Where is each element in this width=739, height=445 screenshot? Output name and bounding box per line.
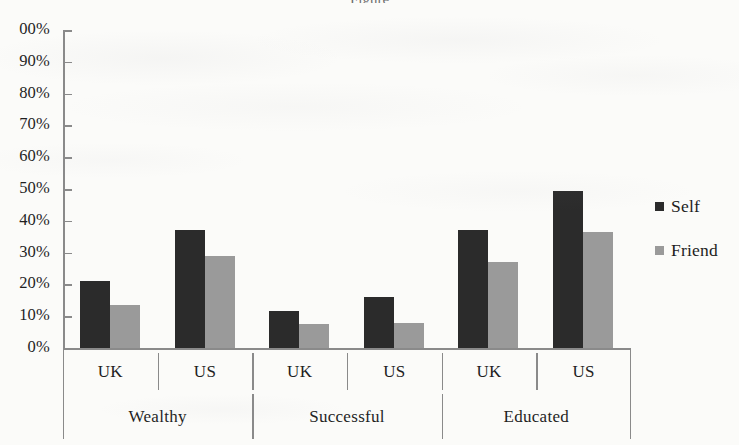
bar-group	[252, 30, 347, 348]
y-axis-tick-label: 70%	[0, 116, 50, 132]
y-axis-tick-mark	[65, 189, 72, 191]
bar-friend	[299, 324, 329, 348]
y-axis-tick-label: 50%	[0, 180, 50, 196]
y-axis-tick-label: 40%	[0, 212, 50, 228]
bar-group	[63, 30, 158, 348]
y-axis-tick-mark	[65, 30, 72, 32]
x-axis-subcategory-label: UK	[442, 349, 537, 394]
bar-friend	[205, 256, 235, 348]
bar-group	[536, 30, 631, 348]
bar-group	[347, 30, 442, 348]
y-axis-tick-label: 10%	[0, 307, 50, 323]
bar-self	[364, 297, 394, 348]
legend-item: Friend	[655, 240, 718, 261]
x-axis-subcategory-label: US	[347, 349, 442, 394]
y-axis-tick-mark	[65, 221, 72, 223]
cropped-title-fragment: Figure	[0, 0, 739, 3]
x-axis-group-label: Successful	[252, 394, 441, 439]
y-axis-tick-label: 80%	[0, 85, 50, 101]
square-swatch-self-icon	[655, 202, 664, 211]
y-axis-tick-label: 0%	[0, 339, 50, 355]
bar-self	[80, 281, 110, 348]
x-axis-subcategory-label: UK	[252, 349, 347, 394]
x-axis-group-label: Educated	[442, 394, 631, 439]
bar-friend	[583, 232, 613, 348]
bar-group	[158, 30, 253, 348]
bar-self	[269, 311, 299, 348]
category-axis: UKUSUKUSUKUS WealthySuccessfulEducated	[63, 349, 631, 439]
y-axis-tick-mark	[65, 284, 72, 286]
legend-label: Self	[671, 196, 700, 217]
category-axis-inner-row: UKUSUKUSUKUS	[63, 349, 631, 394]
y-axis-tick-label: 00%	[0, 21, 50, 37]
bar-group	[441, 30, 536, 348]
x-axis-subcategory-label: US	[536, 349, 631, 394]
bar-self	[458, 230, 488, 348]
bar-friend	[488, 262, 518, 348]
y-axis-tick-mark	[65, 157, 72, 159]
x-axis-subcategory-label: UK	[63, 349, 158, 394]
x-axis-group-label: Wealthy	[63, 394, 252, 439]
chart-page: Figure 00%90%80%70%60%50%40%30%20%10%0% …	[0, 0, 739, 445]
y-axis-tick-label: 90%	[0, 53, 50, 69]
y-axis-tick-mark	[65, 253, 72, 255]
y-axis-tick-mark	[65, 94, 72, 96]
square-swatch-friend-icon	[655, 246, 664, 255]
y-axis-tick-mark	[65, 62, 72, 64]
category-axis-outer-row: WealthySuccessfulEducated	[63, 394, 631, 439]
y-axis-tick-label: 60%	[0, 148, 50, 164]
bar-friend	[110, 305, 140, 348]
legend-item: Self	[655, 196, 718, 217]
bar-self	[553, 191, 583, 348]
bar-self	[175, 230, 205, 348]
y-axis-tick-mark	[65, 125, 72, 127]
y-axis-tick-label: 20%	[0, 275, 50, 291]
chart-legend: SelfFriend	[655, 196, 718, 284]
y-axis-tick-label: 30%	[0, 244, 50, 260]
x-axis-subcategory-label: US	[158, 349, 253, 394]
y-axis-tick-mark	[65, 348, 72, 350]
legend-label: Friend	[671, 240, 718, 261]
y-axis-tick-mark	[65, 316, 72, 318]
plot-area	[63, 30, 630, 348]
bar-friend	[394, 323, 424, 348]
